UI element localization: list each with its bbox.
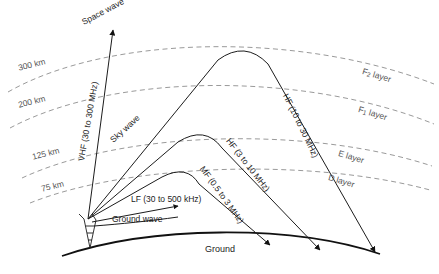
lf-30-500-path [92, 206, 178, 222]
ground-curve [62, 232, 380, 256]
ground-wave-path [94, 217, 178, 226]
wave-paths [88, 30, 375, 252]
e-layer-arc [22, 139, 432, 178]
f1-layer-arc [10, 85, 434, 128]
hf-10-30-path [88, 51, 375, 252]
ionosphere-layers [8, 47, 434, 203]
d-layer-arc [30, 169, 430, 203]
radio-propagation-diagram: 300 km 200 km 125 km 75 km F2 layer F1 l… [0, 0, 439, 274]
antenna-tower [79, 214, 96, 248]
space-wave-path [88, 30, 113, 219]
diagram-canvas [0, 0, 439, 274]
